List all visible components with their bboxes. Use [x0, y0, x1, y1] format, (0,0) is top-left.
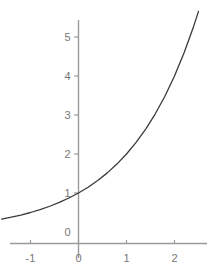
y-tick-label-1: 1 — [59, 188, 71, 199]
y-tick-label-4: 4 — [59, 71, 71, 82]
y-tick-label-2: 2 — [59, 149, 71, 160]
y-tick-marks — [74, 37, 78, 193]
x-tick-label-2: 2 — [171, 253, 177, 264]
y-tick-label-3: 3 — [59, 110, 71, 121]
x-tick-label--1: -1 — [26, 253, 36, 264]
chart-figure: -1012 012345 — [0, 0, 212, 270]
data-series-curve — [2, 11, 199, 219]
y-tick-label-0: 0 — [59, 227, 71, 238]
x-tick-label-1: 1 — [123, 253, 129, 264]
exponential-curve-plot — [0, 0, 212, 270]
axes-group — [10, 20, 207, 258]
y-tick-label-5: 5 — [59, 32, 71, 43]
x-tick-label-0: 0 — [75, 253, 81, 264]
